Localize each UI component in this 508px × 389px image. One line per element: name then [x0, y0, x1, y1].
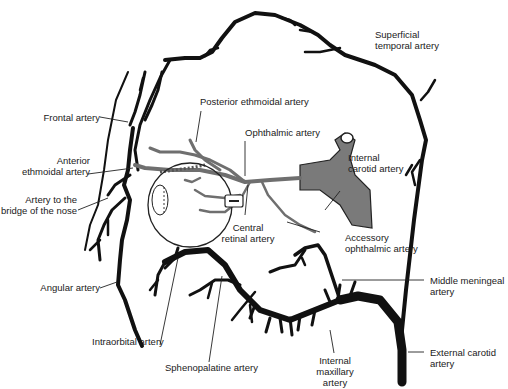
label-line: artery — [430, 358, 496, 369]
label-artery-to-bridge-of-nose: Artery to the bridge of the nose — [0, 194, 77, 216]
label-line: artery — [312, 377, 358, 388]
label-intraorbital-artery: Intraorbital artery — [92, 336, 164, 347]
label-line: Artery to the — [0, 194, 77, 205]
label-line: temporal artery — [375, 40, 439, 51]
sphenopalatine-artery — [190, 280, 255, 322]
label-line: artery — [430, 286, 504, 297]
label-line: ethmoidal artery — [5, 166, 90, 177]
label-line: retinal artery — [218, 233, 278, 244]
angular-artery — [90, 128, 142, 346]
label-superficial-temporal-artery: Superficial temporal artery — [375, 29, 439, 51]
internal-carotid-artery — [300, 133, 372, 228]
label-line: External carotid — [430, 347, 496, 358]
label-sphenopalatine-artery: Sphenopalatine artery — [165, 362, 258, 373]
label-anterior-ethmoidal-artery: Anterior ethmoidal artery — [5, 155, 90, 177]
label-posterior-ethmoidal-artery: Posterior ethmoidal artery — [200, 96, 309, 107]
label-line: Internal — [348, 152, 403, 163]
label-external-carotid-artery: External carotid artery — [430, 347, 496, 369]
label-line: Middle meningeal — [430, 275, 504, 286]
label-ophthalmic-artery: Ophthalmic artery — [245, 127, 320, 138]
label-line: Accessory — [345, 232, 418, 243]
label-line: Central — [218, 222, 278, 233]
middle-meningeal-artery — [270, 245, 340, 300]
label-internal-maxillary-artery: Internal maxillary artery — [312, 355, 358, 388]
label-central-retinal-artery: Central retinal artery — [218, 222, 278, 244]
label-line: Internal — [312, 355, 358, 366]
label-line: carotid artery — [348, 163, 403, 174]
label-line: bridge of the nose — [0, 205, 77, 216]
label-accessory-ophthalmic-artery: Accessory ophthalmic artery — [345, 232, 418, 254]
label-line: ophthalmic artery — [345, 243, 418, 254]
label-frontal-artery: Frontal artery — [32, 112, 100, 123]
label-internal-carotid-artery: Internal carotid artery — [348, 152, 403, 174]
label-middle-meningeal-artery: Middle meningeal artery — [430, 275, 504, 297]
label-angular-artery: Angular artery — [20, 282, 100, 293]
label-line: Superficial — [375, 29, 439, 40]
label-line: maxillary — [312, 366, 358, 377]
label-line: Anterior — [5, 155, 90, 166]
